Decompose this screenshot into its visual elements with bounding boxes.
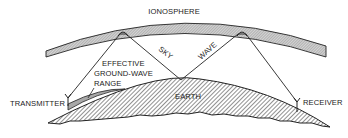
ionosphere-label: IONOSPHERE [148, 7, 200, 16]
receiver-label: RECEIVER [303, 98, 343, 107]
earth-label: EARTH [175, 92, 201, 101]
ground-wave-label: GROUND-WAVE [94, 69, 153, 78]
radio-propagation-diagram: IONOSPHERE SKY WAVE EFFECTIVE GROUND-WAV… [0, 0, 348, 138]
effective-label: EFFECTIVE [102, 59, 145, 68]
ionosphere-band [46, 23, 326, 57]
diagram-canvas: IONOSPHERE SKY WAVE EFFECTIVE GROUND-WAV… [0, 0, 348, 138]
range-label: RANGE [94, 79, 122, 88]
transmitter-label: TRANSMITTER [10, 99, 66, 108]
earth-shape [48, 78, 330, 127]
sky-label: SKY [157, 44, 175, 61]
